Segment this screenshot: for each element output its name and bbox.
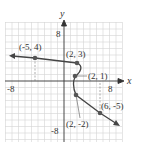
x-axis-arrow-icon	[118, 79, 124, 84]
point-6-neg5	[98, 111, 103, 116]
y-axis-label: y	[59, 8, 65, 19]
label-point-6-neg5: (6, -5)	[101, 101, 124, 111]
x-axis-label: x	[126, 75, 132, 86]
point-neg5-4	[33, 56, 38, 61]
x-tick-neg8: -8	[7, 84, 15, 94]
y-tick-neg8: -8	[51, 126, 59, 136]
graph: x y -8 8 8 -8 (-5, 4) (2, 3) (2, 1) (2, …	[0, 0, 148, 156]
label-point-2-1: (2, 1)	[88, 71, 108, 81]
point-2-3	[75, 61, 80, 66]
x-tick-8: 8	[108, 84, 113, 94]
point-2-1	[73, 74, 78, 79]
axes	[5, 20, 124, 142]
label-point-2-3: (2, 3)	[66, 49, 86, 59]
curve-right-arrow-icon	[113, 120, 120, 126]
y-axis-arrow-icon	[62, 20, 67, 26]
label-point-2-neg2: (2, -2)	[66, 119, 89, 129]
y-tick-8: 8	[56, 29, 61, 39]
label-point-neg5-4: (-5, 4)	[19, 42, 42, 52]
